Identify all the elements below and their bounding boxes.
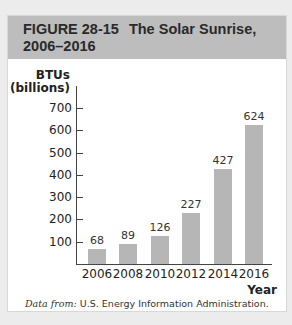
bar-value-label: 624 [234,111,274,122]
y-tick-label: 200 [20,213,72,225]
bar-2008 [119,244,137,264]
source-note: Data from: U.S. Energy Information Admin… [25,298,269,309]
y-tick [77,130,83,131]
y-tick-label: 500 [20,147,72,159]
figure-title-years: 2006–2016 [23,38,96,54]
x-axis-line [76,264,272,265]
y-tick-label: 400 [20,169,72,181]
bar-2012 [182,213,200,264]
source-text: U.S. Energy Information Administration. [80,298,269,309]
bar-2010 [151,236,169,264]
y-tick-label: 600 [20,124,72,136]
y-axis-title: BTUs (billions) [0,69,70,95]
bar-2016 [245,125,263,264]
x-axis-title: Year [247,283,277,297]
y-tick-label: 300 [20,191,72,203]
bar-value-label: 227 [171,199,211,210]
bar-value-label: 427 [203,155,243,166]
figure-title-text: The Solar Sunrise, [129,21,256,37]
x-tick-label: 2016 [234,268,274,280]
y-axis-title-line1: BTUs [36,68,70,82]
y-tick [77,197,83,198]
figure-title: FIGURE 28-15The Solar Sunrise, 2006–2016 [23,21,273,55]
y-tick [77,153,83,154]
y-tick-label: 100 [20,236,72,248]
bar-value-label: 126 [140,222,180,233]
y-axis-title-line2: (billions) [10,81,70,95]
y-tick-label: 700 [20,102,72,114]
y-tick [77,108,83,109]
bar-2014 [214,169,232,264]
y-tick [77,219,83,220]
bar-2006 [88,249,106,264]
source-prefix: Data from: [25,298,77,309]
figure-number: FIGURE 28-15 [23,21,119,37]
y-tick [77,175,83,176]
figure-header: FIGURE 28-15The Solar Sunrise, 2006–2016 [8,16,286,59]
